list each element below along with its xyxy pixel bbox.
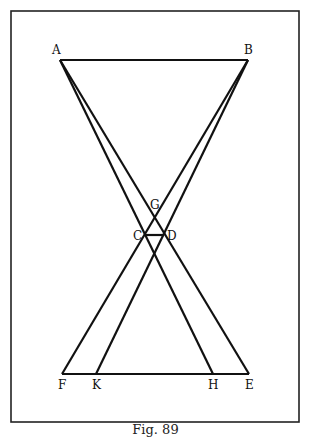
figure-caption: Fig. 89 (0, 423, 311, 437)
label-K: K (92, 378, 102, 392)
label-E: E (245, 378, 254, 392)
label-C: C (133, 229, 142, 243)
segment-AH (60, 60, 213, 374)
label-B: B (244, 43, 253, 57)
label-D: D (167, 229, 177, 243)
segment-BK (96, 60, 248, 374)
label-F: F (58, 378, 66, 392)
label-H: H (208, 378, 218, 392)
label-G: G (150, 198, 160, 212)
label-A: A (51, 43, 61, 57)
